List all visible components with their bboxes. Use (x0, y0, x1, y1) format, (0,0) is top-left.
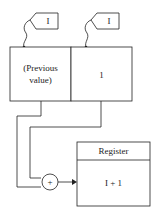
register-title: Register (77, 146, 150, 156)
tag-1-string (24, 20, 30, 47)
tag-2-string (85, 20, 91, 47)
tag-2-label: I (99, 16, 119, 26)
adder-symbol: + (42, 177, 58, 187)
wire-previous (17, 101, 41, 187)
cell-previous-line1: (Previous (10, 63, 71, 73)
cell-previous-line2: value) (10, 75, 71, 85)
tag-1-label: I (38, 16, 58, 26)
memory-cell-previous (10, 47, 71, 101)
register-value: I + 1 (77, 178, 150, 188)
cell-one-text: 1 (71, 70, 132, 80)
